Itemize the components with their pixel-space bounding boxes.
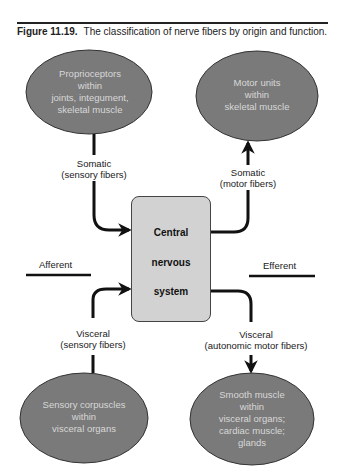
node-line: glands: [192, 437, 312, 449]
label-somatic-sensory: Somatic (sensory fibers): [44, 158, 144, 180]
central-nervous-system-box: Central nervous system: [131, 196, 211, 322]
arrow-somatic-sensory: [94, 134, 129, 230]
node-line: Motor units: [197, 77, 317, 89]
edge-label-line: (sensory fibers): [43, 339, 143, 350]
node-line: within: [192, 401, 312, 413]
node-line: within: [22, 411, 146, 423]
label-visceral-sensory: Visceral (sensory fibers): [43, 328, 143, 350]
node-line: Proprioceptors: [30, 68, 150, 80]
edge-label-line: (motor fibers): [208, 178, 288, 189]
edge-label-line: (autonomic motor fibers): [191, 340, 321, 351]
node-sensory-corpuscles-text: Sensory corpuscles within visceral organ…: [22, 399, 146, 435]
node-smooth-muscle-text: Smooth muscle within visceral organs; ca…: [192, 389, 312, 449]
node-line: cardiac muscle;: [192, 425, 312, 437]
afferent-label: Afferent: [39, 259, 72, 270]
edge-label-line: Somatic: [44, 158, 144, 169]
cns-line-3: system: [132, 286, 210, 297]
node-line: Sensory corpuscles: [22, 399, 146, 411]
node-line: skeletal muscle: [30, 104, 150, 116]
node-line: within: [197, 89, 317, 101]
edge-label-line: Visceral: [43, 328, 143, 339]
edge-label-line: Visceral: [191, 329, 321, 340]
node-line: skeletal muscle: [197, 101, 317, 113]
cns-line-2: nervous: [132, 257, 210, 268]
node-line: joints, integument,: [30, 92, 150, 104]
node-proprioceptors-text: Proprioceptors within joints, integument…: [30, 68, 150, 116]
node-line: within: [30, 80, 150, 92]
node-line: visceral organs;: [192, 413, 312, 425]
node-line: visceral organs: [22, 423, 146, 435]
label-visceral-motor: Visceral (autonomic motor fibers): [191, 329, 321, 351]
node-motor-units-text: Motor units within skeletal muscle: [197, 77, 317, 113]
label-somatic-motor: Somatic (motor fibers): [208, 167, 288, 189]
edge-label-line: Somatic: [208, 167, 288, 178]
node-line: Smooth muscle: [192, 389, 312, 401]
cns-line-1: Central: [132, 227, 210, 238]
efferent-label: Efferent: [263, 260, 296, 271]
edge-label-line: (sensory fibers): [44, 169, 144, 180]
